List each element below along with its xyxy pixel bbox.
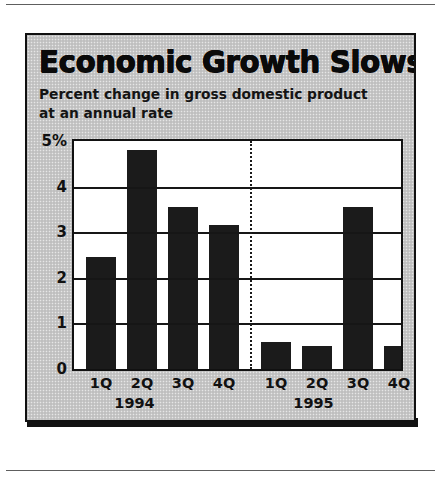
gridline xyxy=(74,323,401,325)
x-axis-tick-1995-3Q: 3Q xyxy=(347,375,369,391)
bar-1995-4Q xyxy=(384,346,403,369)
y-axis-tick-1: 1 xyxy=(39,314,67,332)
page-rule-bottom xyxy=(6,470,435,471)
x-axis-group-label-1995: 1995 xyxy=(293,395,333,411)
bar-1994-1Q xyxy=(86,257,116,369)
y-axis-labels: 012345% xyxy=(39,139,67,371)
y-axis-tick-3: 3 xyxy=(39,223,67,241)
plot-block: 012345% 1Q2Q3Q4Q1Q2Q3Q4Q 19941995 xyxy=(39,139,403,409)
x-axis-tick-1995-2Q: 2Q xyxy=(306,375,328,391)
bar-1994-4Q xyxy=(209,225,239,369)
x-axis-tick-1995-1Q: 1Q xyxy=(265,375,287,391)
bar-1995-2Q xyxy=(302,346,332,369)
chart-figure: Economic Growth Slows Percent change in … xyxy=(25,33,416,422)
x-axis-tick-1994-4Q: 4Q xyxy=(213,375,235,391)
y-axis-tick-5%: 5% xyxy=(39,132,67,150)
bar-1994-2Q xyxy=(127,150,157,369)
gridline xyxy=(74,232,401,234)
page-rule-top xyxy=(6,4,435,5)
x-axis-group-labels: 19941995 xyxy=(72,395,403,415)
gridline xyxy=(74,278,401,280)
x-axis-tick-1995-4Q: 4Q xyxy=(388,375,410,391)
plot-area xyxy=(72,139,403,371)
chart-subtitle: Percent change in gross domestic product… xyxy=(39,85,373,123)
x-axis-tick-1994-1Q: 1Q xyxy=(90,375,112,391)
y-axis-tick-0: 0 xyxy=(39,360,67,378)
bar-series xyxy=(74,141,401,369)
x-axis-tick-labels: 1Q2Q3Q4Q1Q2Q3Q4Q xyxy=(72,375,403,395)
gridline xyxy=(74,187,401,189)
year-divider xyxy=(250,141,254,369)
page-title: Economic Growth Slows xyxy=(39,45,396,79)
x-axis-group-label-1994: 1994 xyxy=(114,395,154,411)
x-axis-tick-1994-3Q: 3Q xyxy=(172,375,194,391)
x-axis-tick-1994-2Q: 2Q xyxy=(131,375,153,391)
y-axis-tick-4: 4 xyxy=(39,178,67,196)
bar-1995-1Q xyxy=(261,342,291,369)
y-axis-tick-2: 2 xyxy=(39,269,67,287)
